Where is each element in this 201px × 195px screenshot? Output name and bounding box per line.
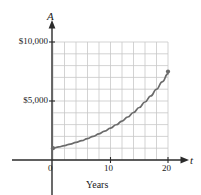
x-tick-label-20: 20 xyxy=(162,164,171,173)
x-tick-label-0: 0 xyxy=(48,164,53,173)
x-axis-label: t xyxy=(190,155,193,166)
y-tick-label-5000: $5,000 xyxy=(2,96,48,105)
data-point-marker-start xyxy=(51,146,55,150)
y-tick-label-10000: $10,000 xyxy=(2,37,48,46)
y-axis-label: A xyxy=(47,11,54,22)
x-tick-label-10: 10 xyxy=(104,164,113,173)
data-point-marker-end xyxy=(166,69,170,73)
x-axis-caption: Years xyxy=(86,180,108,190)
chart-figure: A t $10,000 $5,000 0 10 20 Years xyxy=(0,0,201,195)
